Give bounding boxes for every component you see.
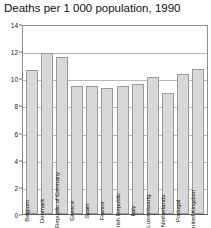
y-axis-tick-label: 14 — [11, 22, 18, 29]
y-axis-tick-label: 6 — [14, 130, 18, 137]
bar: Spain — [86, 86, 98, 214]
bar-slot: France — [100, 26, 115, 214]
y-axis-tick-label: 10 — [11, 76, 18, 83]
x-axis-category-label: Portugal — [173, 200, 183, 222]
bar-slot: United Kingdom — [191, 26, 206, 214]
y-axis-tick-label: 2 — [14, 184, 18, 191]
x-axis-category-label: France — [97, 202, 107, 221]
bar-slot: Portugal — [176, 26, 191, 214]
chart-title: Deaths per 1 000 population, 1990 — [4, 2, 180, 14]
x-axis-category-label: United Kingdom — [188, 190, 198, 228]
bar: Netherlands — [162, 93, 174, 214]
bar-slot: Spain — [85, 26, 100, 214]
x-axis-category-label: Irish Republic — [113, 193, 123, 228]
bar: Greece — [71, 86, 83, 214]
bar-slot: Greece — [70, 26, 85, 214]
bar-chart-figure: Deaths per 1 000 population, 1990 024681… — [0, 0, 211, 228]
y-axis-tick-label: 4 — [14, 157, 18, 164]
bar: France — [101, 88, 113, 214]
bar-slot: Luxembourg — [145, 26, 160, 214]
bar: Italy — [132, 84, 144, 214]
bars-layer: BelgiumDenmarkFederal Republic of German… — [23, 26, 207, 214]
bar-slot: Belgium — [24, 26, 39, 214]
bar-slot: Federal Republic of Germany — [54, 26, 69, 214]
bar-slot: Netherlands — [161, 26, 176, 214]
plot-area: BelgiumDenmarkFederal Republic of German… — [22, 25, 208, 215]
x-axis-category-label: Denmark — [37, 199, 47, 223]
x-axis-category-label: Greece — [67, 201, 77, 221]
y-axis: 02468101214 — [0, 0, 22, 228]
x-axis-category-label: Federal Republic of Germany — [52, 172, 62, 228]
x-axis-category-label: Luxembourg — [143, 194, 153, 227]
y-axis-tick-label: 8 — [14, 103, 18, 110]
bar: Denmark — [41, 53, 53, 215]
x-axis-category-label: Italy — [128, 206, 138, 217]
x-axis-category-label: Netherlands — [158, 195, 168, 227]
x-axis-category-label: Spain — [82, 203, 92, 218]
bar: Luxembourg — [147, 77, 159, 214]
bar: Irish Republic — [117, 86, 129, 214]
bar: Federal Republic of Germany — [56, 57, 68, 214]
bar: Belgium — [26, 70, 38, 214]
y-axis-tick-label: 0 — [14, 212, 18, 219]
bar-slot: Irish Republic — [115, 26, 130, 214]
y-axis-tick-label: 12 — [11, 49, 18, 56]
bar-slot: Italy — [130, 26, 145, 214]
bar: United Kingdom — [192, 69, 204, 214]
x-axis-category-label: Belgium — [22, 200, 32, 222]
